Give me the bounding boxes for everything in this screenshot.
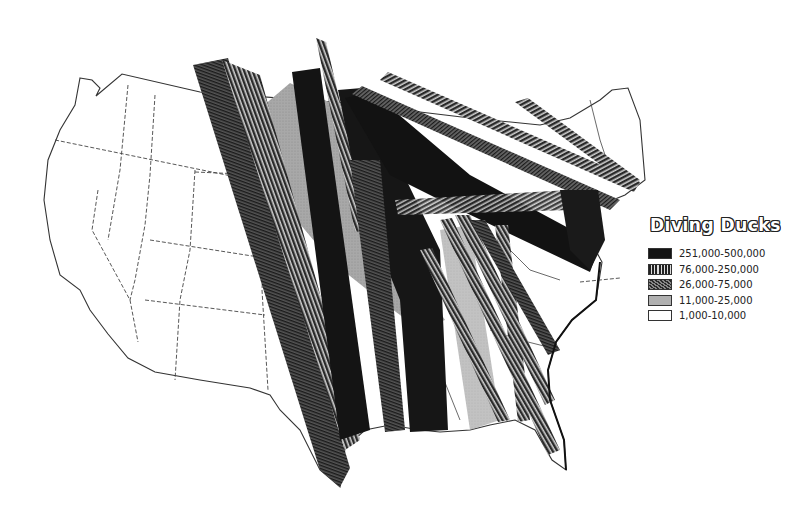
- swatch-diagonal-hatch-icon: [648, 279, 672, 290]
- legend-label: 1,000-10,000: [679, 310, 746, 321]
- swatch-stipple-gray-icon: [648, 295, 672, 306]
- legend-item: 11,000-25,000: [648, 293, 800, 309]
- legend-label: 76,000-250,000: [679, 264, 759, 275]
- swatch-solid-black-icon: [648, 248, 672, 259]
- swatch-vertical-lines-icon: [648, 264, 672, 275]
- legend-title: Diving Ducks: [650, 215, 800, 235]
- migration-bands: [193, 38, 640, 487]
- swatch-white-icon: [648, 310, 672, 321]
- legend-item: 251,000-500,000: [648, 246, 800, 262]
- legend-item: 76,000-250,000: [648, 262, 800, 278]
- legend-item: 1,000-10,000: [648, 308, 800, 324]
- legend: Diving Ducks 251,000-500,000 76,000-250,…: [640, 215, 800, 324]
- legend-label: 251,000-500,000: [679, 248, 765, 259]
- legend-item: 26,000-75,000: [648, 277, 800, 293]
- legend-label: 26,000-75,000: [679, 279, 753, 290]
- legend-label: 11,000-25,000: [679, 295, 753, 306]
